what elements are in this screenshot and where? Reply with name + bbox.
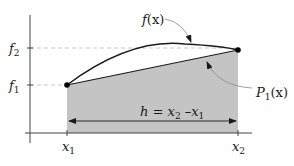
x1-label: x1 [62, 139, 75, 156]
trapezoid-diagram: f(x) P1(x) f2 f1 x1 x2 h = x2 –x1 [0, 0, 294, 166]
f-label: f(x) [141, 12, 164, 27]
f2-label: f2 [8, 41, 20, 58]
point-x2-f2 [235, 47, 241, 53]
point-x1-f1 [64, 82, 70, 88]
f-leader-arrow [165, 19, 191, 42]
f1-label: f1 [8, 78, 20, 95]
h-label: h = x2 –x1 [140, 104, 204, 121]
x2-label: x2 [232, 139, 245, 156]
p1-label: P1(x) [255, 85, 288, 102]
